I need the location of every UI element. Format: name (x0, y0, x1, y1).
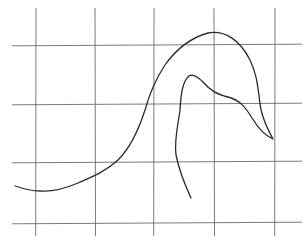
grid (12, 8, 302, 236)
hand-drawn-curve (15, 32, 273, 198)
grid-horizontal-line (12, 103, 302, 105)
grid-horizontal-line (12, 44, 302, 46)
sketch-canvas (0, 0, 308, 244)
grid-sketch (0, 0, 308, 244)
grid-horizontal-line (12, 222, 302, 224)
grid-vertical-line (214, 8, 215, 236)
grid-horizontal-line (12, 161, 302, 163)
grid-vertical-line (95, 8, 96, 236)
